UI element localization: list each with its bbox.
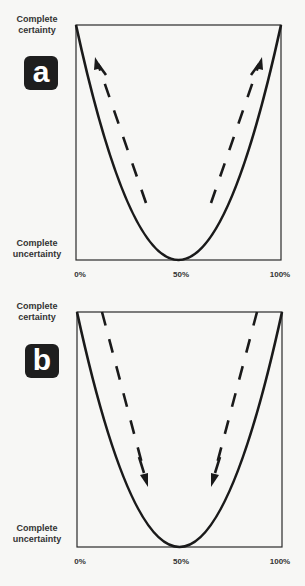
x-tick-0: 0% [74, 270, 86, 279]
panel-b: Complete certainty b Complete uncertaint… [0, 287, 305, 586]
chart-a [0, 0, 305, 290]
panel-a: Complete certainty a Complete uncertaint… [0, 0, 305, 290]
arrow-down-right-icon [211, 312, 257, 487]
x-tick-100: 100% [270, 270, 290, 279]
chart-b [0, 287, 305, 586]
certainty-curve [76, 25, 281, 260]
x-tick-50: 50% [173, 557, 189, 566]
x-tick-100: 100% [270, 557, 290, 566]
certainty-curve [77, 312, 282, 547]
x-tick-0: 0% [74, 557, 86, 566]
x-tick-50: 50% [173, 270, 189, 279]
arrow-down-left-icon [102, 312, 148, 487]
